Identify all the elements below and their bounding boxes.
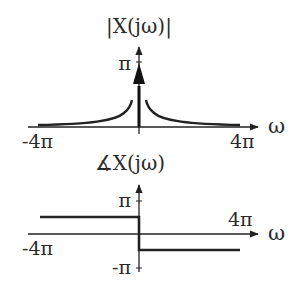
- magnitude-plot: |X(jω)| π -4π 4π ω: [22, 14, 285, 152]
- phase-pi-label: π: [119, 189, 132, 211]
- fourier-transform-diagram: |X(jω)| π -4π 4π ω ∡X(jω) π -π -4π 4π: [0, 0, 303, 304]
- phase-x-left-label: -4π: [22, 237, 53, 259]
- phase-neg-pi-label: -π: [112, 256, 131, 278]
- phase-plot: ∡X(jω) π -π -4π 4π ω: [22, 151, 285, 278]
- magnitude-x-left-label: -4π: [22, 130, 53, 152]
- phase-omega-label: ω: [268, 221, 285, 245]
- magnitude-curve-right: [146, 100, 240, 125]
- magnitude-pi-label: π: [119, 52, 132, 74]
- phase-x-right-label: 4π: [228, 208, 253, 230]
- impulse-arrowhead: [133, 63, 145, 84]
- magnitude-x-right-label: 4π: [230, 130, 255, 152]
- phase-title: ∡X(jω): [95, 151, 165, 175]
- magnitude-title: |X(jω)|: [106, 14, 172, 39]
- magnitude-omega-label: ω: [268, 114, 285, 138]
- magnitude-curve-left: [38, 100, 132, 125]
